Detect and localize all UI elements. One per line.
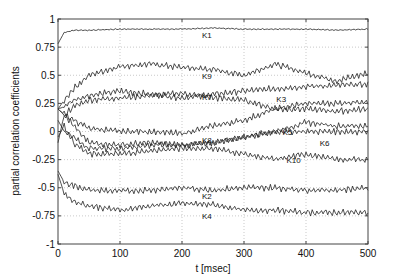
curves (58, 28, 368, 217)
y-tick-label: 0.5 (41, 70, 55, 81)
x-axis-label: t [msec] (195, 263, 230, 274)
label-k8: K8 (202, 136, 212, 145)
label-k1: K1 (202, 31, 212, 40)
curve-k3 (58, 82, 368, 110)
label-k5: K5 (283, 128, 293, 137)
label-k4: K4 (202, 212, 212, 221)
label-k2: K2 (202, 192, 212, 201)
y-tick-label: 0.25 (36, 98, 56, 109)
curve-k2 (58, 171, 368, 194)
y-tick-label: 0 (49, 126, 55, 137)
x-tick-label: 0 (55, 248, 61, 259)
curve-k4 (58, 174, 368, 216)
line-chart: 0100200300400500 -1-0.75-0.5-0.2500.250.… (0, 0, 394, 279)
x-tick-label: 500 (360, 248, 377, 259)
y-tick-label: -1 (46, 239, 55, 250)
x-tick-label: 400 (298, 248, 315, 259)
curve-k1 (58, 28, 368, 44)
y-axis-label: partial correlation coefficients (10, 66, 21, 195)
y-tick-label: 1 (49, 14, 55, 25)
label-k3: K3 (276, 95, 286, 104)
label-k6: K6 (320, 139, 330, 148)
label-k7: K7 (202, 93, 212, 102)
x-tick-label: 100 (112, 248, 129, 259)
y-tick-label: -0.25 (32, 154, 55, 165)
y-tick-label: -0.75 (32, 210, 55, 221)
label-k10: K10 (286, 156, 301, 165)
curve-k7 (58, 91, 368, 116)
y-tick-label: -0.5 (38, 182, 56, 193)
y-tick-label: 0.75 (36, 42, 56, 53)
label-k9: K9 (202, 72, 212, 81)
x-tick-label: 300 (236, 248, 253, 259)
x-tick-label: 200 (174, 248, 191, 259)
